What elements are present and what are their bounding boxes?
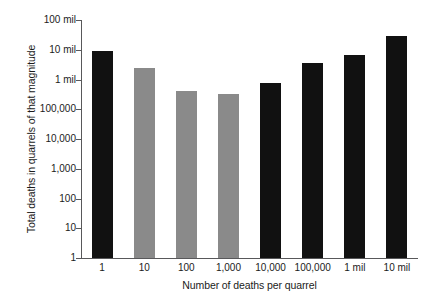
y-axis-tick-label: 10 bbox=[18, 223, 76, 233]
y-axis-tick-mark bbox=[76, 20, 81, 21]
plot-area bbox=[81, 20, 418, 258]
x-axis-title: Number of deaths per quarrel bbox=[81, 279, 418, 291]
bar bbox=[218, 94, 239, 258]
y-axis-tick-label: 10 mil bbox=[18, 45, 76, 55]
y-axis-tick-labels: 100 mil10 mil1 mil100,00010,0001,0001001… bbox=[18, 0, 76, 299]
y-axis-tick-mark bbox=[76, 50, 81, 51]
y-axis-tick-mark bbox=[76, 258, 81, 259]
y-axis-tick-label: 100 bbox=[18, 194, 76, 204]
y-axis-tick-label: 1,000 bbox=[18, 164, 76, 174]
bar bbox=[386, 36, 407, 258]
bar bbox=[260, 83, 281, 258]
y-axis-tick-label: 100,000 bbox=[18, 104, 76, 114]
y-axis-tick-label: 100 mil bbox=[18, 15, 76, 25]
y-axis-tick-mark bbox=[76, 80, 81, 81]
y-axis-tick-mark bbox=[76, 199, 81, 200]
bar bbox=[92, 51, 113, 258]
x-axis-tick-label: 10 mil bbox=[370, 262, 423, 273]
bar-chart-figure: Total deaths in quarrels of that magnitu… bbox=[0, 0, 423, 299]
y-axis-tick-label: 10,000 bbox=[18, 134, 76, 144]
y-axis-tick-label: 1 mil bbox=[18, 75, 76, 85]
bar bbox=[302, 63, 323, 258]
bar bbox=[176, 91, 197, 258]
bar bbox=[134, 68, 155, 258]
bar bbox=[344, 55, 365, 258]
x-axis-tick-labels: 1101001,00010,000100,0001 mil10 mil bbox=[81, 262, 418, 278]
y-axis-tick-mark bbox=[76, 169, 81, 170]
y-axis-tick-label: 1 bbox=[18, 253, 76, 263]
y-axis-tick-mark bbox=[76, 109, 81, 110]
y-axis-tick-mark bbox=[76, 228, 81, 229]
y-axis-tick-mark bbox=[76, 139, 81, 140]
